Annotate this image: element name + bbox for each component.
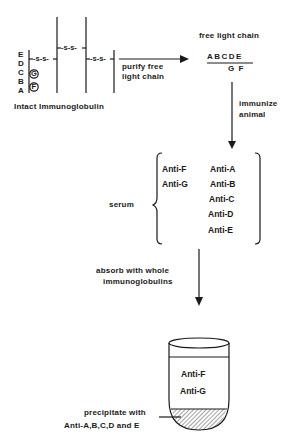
purify-step-label-2: light chain: [122, 72, 164, 82]
immunize-step-label-1: immunize: [239, 99, 278, 109]
serum-anti-c: Anti-C: [209, 194, 235, 204]
serum-anti-b: Anti-B: [210, 179, 236, 189]
free-light-chain-title: free light chain: [199, 31, 259, 41]
immunize-step-label-2: animal: [239, 110, 266, 120]
serum-anti-g: Anti-G: [162, 179, 188, 189]
precipitate-label-2: Anti-A,B,C,D and E: [64, 421, 140, 431]
absorb-step-label-1: absorb with whole: [96, 266, 169, 276]
serum-label: serum: [109, 200, 134, 210]
intact-immunoglobulin-caption: Intact Immunoglobulin: [14, 102, 104, 112]
disulfide-bond-3: -s-s-: [90, 54, 106, 64]
serum-anti-a: Anti-A: [210, 164, 236, 174]
circled-letter-f: F: [32, 82, 37, 92]
domain-letter-a: A: [18, 86, 24, 96]
precipitate-hatch: [172, 409, 226, 430]
disulfide-bond-2: -s-s-: [61, 43, 77, 53]
free-light-chain-bottom: G F: [228, 64, 244, 74]
circled-letter-g: G: [31, 69, 37, 79]
serum-anti-e: Anti-E: [208, 225, 233, 235]
tube-anti-f: Anti-F: [181, 369, 206, 379]
free-light-chain-top: ABCDE: [207, 52, 243, 62]
disulfide-bond-1: -s-s-: [33, 54, 49, 64]
absorb-step-label-2: immunoglobulins: [103, 277, 173, 287]
precipitate-label-1: precipitate with: [84, 408, 146, 418]
serum-anti-f: Anti-F: [162, 164, 187, 174]
tube-anti-g: Anti-G: [180, 386, 206, 396]
serum-anti-d: Anti-D: [208, 209, 234, 219]
purify-step-label-1: purify free: [122, 62, 163, 72]
